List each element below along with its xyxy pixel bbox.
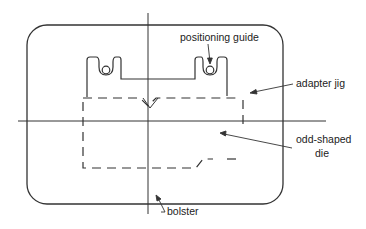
arrow-head-adapter-jig xyxy=(250,90,257,95)
arrow-head-odd-shaped-die xyxy=(220,131,226,136)
positioning-guide-pin-left xyxy=(102,66,110,74)
adapter-jig-outline xyxy=(87,57,227,97)
label-odd-shaped-die-line2: die xyxy=(315,147,329,159)
odd-shaped-die-outline xyxy=(83,98,243,168)
bolster-outline xyxy=(27,25,283,204)
label-adapter-jig: adapter jig xyxy=(296,77,345,89)
leader-arrows xyxy=(156,44,293,212)
label-odd-shaped-die-line1: odd-shaped xyxy=(296,133,352,145)
label-bolster: bolster xyxy=(167,205,199,217)
adapter-jig-diagram: positioning guide adapter jig odd-shaped… xyxy=(0,0,366,229)
label-positioning-guide: positioning guide xyxy=(180,31,259,43)
arrow-head-positioning-guide xyxy=(208,58,213,64)
positioning-guide-pin-right xyxy=(206,66,214,74)
arrow-head-bolster xyxy=(156,195,161,201)
